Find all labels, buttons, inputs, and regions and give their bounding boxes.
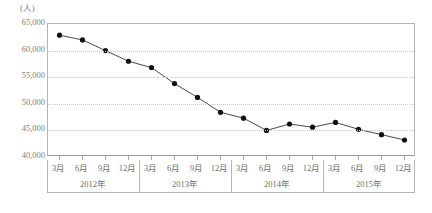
x-axis-tick — [128, 156, 129, 160]
data-point — [287, 121, 292, 126]
x-axis-tick — [151, 156, 152, 160]
x-axis-tick — [197, 156, 198, 160]
data-point — [195, 95, 200, 100]
x-axis-tick — [220, 156, 221, 160]
x-axis-year-label: 2014年 — [237, 178, 317, 190]
year-group-separator — [139, 160, 140, 192]
data-point — [172, 81, 177, 86]
x-axis-tick — [404, 156, 405, 160]
gridline — [48, 51, 414, 52]
y-axis-tick-label: 60,000 — [1, 45, 45, 54]
x-axis-tick — [105, 156, 106, 160]
y-axis-tick-label: 55,000 — [1, 71, 45, 80]
x-axis-tick — [312, 156, 313, 160]
year-group-separator — [323, 160, 324, 192]
data-point — [149, 65, 154, 70]
gridline — [48, 130, 414, 131]
y-axis-tick-label: 50,000 — [1, 98, 45, 107]
data-point — [402, 137, 407, 142]
label-baseline-left-edge — [47, 160, 48, 192]
x-axis-year-labels: 2012年2013年2014年2015年 — [0, 178, 432, 192]
x-axis-year-label: 2012年 — [53, 178, 133, 190]
data-point — [379, 132, 384, 137]
x-axis-tick — [358, 156, 359, 160]
x-axis-tick — [289, 156, 290, 160]
gridline — [48, 77, 414, 78]
y-axis-tick-label: 65,000 — [1, 18, 45, 27]
y-axis-tick-label: 45,000 — [1, 124, 45, 133]
gridline — [48, 104, 414, 105]
line-chart: (人) 65,00060,00055,00050,00045,00040,000… — [0, 0, 432, 213]
x-axis-year-label: 2015年 — [329, 178, 409, 190]
x-axis-tick — [174, 156, 175, 160]
data-series — [48, 24, 416, 157]
data-point — [310, 125, 315, 130]
label-baseline-right-edge — [414, 160, 415, 192]
data-point — [126, 59, 131, 64]
data-point — [218, 110, 223, 115]
x-axis-month-labels: 3月6月9月12月3月6月9月12月3月6月9月12月3月6月9月12月 — [0, 162, 432, 176]
x-axis-tick — [59, 156, 60, 160]
label-baseline — [47, 192, 415, 193]
x-axis-tick — [266, 156, 267, 160]
data-point — [333, 120, 338, 125]
data-point — [57, 33, 62, 38]
x-axis-tick — [381, 156, 382, 160]
x-axis-tick — [335, 156, 336, 160]
y-axis-tick-label: 40,000 — [1, 151, 45, 160]
data-point — [241, 116, 246, 121]
year-group-separator — [231, 160, 232, 192]
plot-area — [47, 23, 415, 156]
x-axis-year-label: 2013年 — [145, 178, 225, 190]
x-axis-tick — [82, 156, 83, 160]
x-axis-tick — [243, 156, 244, 160]
data-point — [80, 37, 85, 42]
